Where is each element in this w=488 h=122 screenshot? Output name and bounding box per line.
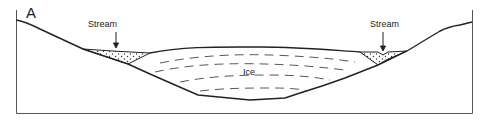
ice-surface [150, 47, 360, 53]
valley-profile [16, 20, 472, 100]
frame [17, 10, 473, 114]
stream-arrows [114, 32, 386, 51]
left-deposit [83, 49, 150, 64]
stream-label-right: Stream [370, 19, 399, 29]
ice-label: Ice [243, 67, 255, 77]
glacier-cross-section: A Stream Stream Ice [0, 0, 488, 122]
cross-section-drawing [0, 0, 488, 122]
panel-label: A [26, 4, 36, 21]
stream-label-left: Stream [88, 19, 117, 29]
